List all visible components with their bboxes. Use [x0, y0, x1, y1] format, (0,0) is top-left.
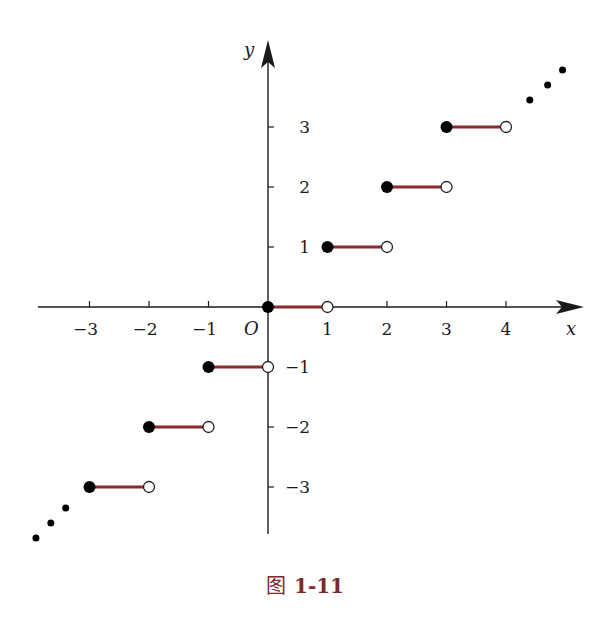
- closed-endpoint-icon: [203, 361, 215, 373]
- continuation-dots: [32, 67, 566, 542]
- ellipsis-dot-icon: [47, 520, 54, 527]
- closed-endpoint-icon: [441, 121, 453, 133]
- y-tick-label: 2: [299, 177, 310, 197]
- ellipsis-dot-icon: [62, 505, 69, 512]
- y-tick-label: 1: [299, 237, 310, 257]
- closed-endpoint-icon: [322, 241, 334, 253]
- y-tick-label: −1: [285, 357, 310, 377]
- x-tick-label: 2: [382, 319, 393, 339]
- closed-endpoint-icon: [143, 421, 155, 433]
- y-axis-label: y: [243, 39, 255, 60]
- ellipsis-dot-icon: [32, 535, 39, 542]
- closed-endpoint-icon: [262, 301, 274, 313]
- closed-endpoint-icon: [84, 481, 96, 493]
- y-tick-label: 3: [299, 117, 310, 137]
- open-endpoint-icon: [441, 182, 452, 193]
- open-endpoint-icon: [382, 242, 393, 253]
- figure-caption-glyph: 图: [266, 574, 286, 598]
- ellipsis-dot-icon: [544, 82, 551, 89]
- x-tick-label: −3: [73, 319, 98, 339]
- x-axis-label: x: [566, 318, 576, 339]
- x-tick-label: 1: [322, 319, 333, 339]
- x-tick-label: −2: [132, 319, 157, 339]
- figure-caption-number: 1-11: [294, 574, 344, 598]
- ellipsis-dot-icon: [526, 97, 533, 104]
- x-tick-label: −1: [192, 319, 217, 339]
- y-tick-label: −2: [285, 417, 310, 437]
- x-tick-label: 3: [441, 319, 452, 339]
- x-tick-label: 4: [501, 319, 512, 339]
- ellipsis-dot-icon: [559, 67, 566, 74]
- y-tick-label: −3: [285, 477, 310, 497]
- closed-endpoint-icon: [381, 181, 393, 193]
- open-endpoint-icon: [144, 482, 155, 493]
- open-endpoint-icon: [263, 362, 274, 373]
- origin-label: O: [244, 318, 259, 339]
- open-endpoint-icon: [203, 422, 214, 433]
- open-endpoint-icon: [322, 302, 333, 313]
- figure-caption: 图1-11: [0, 570, 610, 599]
- step-function-chart: −3−2−11234−3−2−1123xyO: [0, 0, 610, 560]
- open-endpoint-icon: [501, 122, 512, 133]
- axes: [38, 40, 584, 534]
